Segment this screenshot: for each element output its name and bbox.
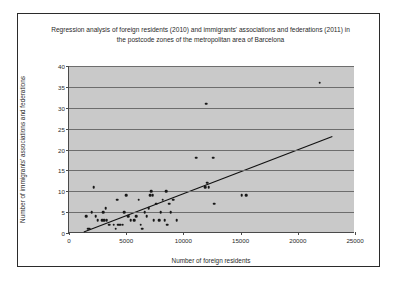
chart-title: Regression analysis of foreign residents… <box>48 25 353 45</box>
data-point <box>195 157 198 160</box>
data-point <box>125 194 128 197</box>
x-tick-label: 0 <box>67 237 70 244</box>
gridline <box>69 129 354 130</box>
chart-frame: Regression analysis of foreign residents… <box>17 13 380 267</box>
data-point <box>139 223 142 226</box>
y-tick-mark <box>66 191 69 192</box>
data-point <box>168 202 171 205</box>
y-tick-mark <box>66 66 69 67</box>
gridline <box>69 150 354 151</box>
data-point <box>165 190 168 193</box>
data-point <box>91 211 94 214</box>
x-tick-label: 20000 <box>289 237 306 244</box>
data-point <box>112 223 115 226</box>
data-point <box>159 211 162 214</box>
x-tick-label: 10000 <box>175 237 192 244</box>
data-point <box>245 194 248 197</box>
data-point <box>318 81 321 84</box>
data-point <box>108 223 111 226</box>
data-point <box>135 215 138 218</box>
data-point <box>102 211 105 214</box>
data-point <box>92 186 95 189</box>
y-axis-label: Number of immigrants' associations and f… <box>16 66 30 233</box>
x-tick-label: 25000 <box>346 237 363 244</box>
data-point <box>133 219 136 222</box>
gridline <box>69 108 354 109</box>
data-point <box>147 207 150 210</box>
data-point <box>145 215 148 218</box>
y-tick-label: 25 <box>58 125 65 132</box>
data-point <box>213 202 216 205</box>
y-tick-label: 15 <box>58 167 65 174</box>
data-point <box>143 211 146 214</box>
data-point <box>204 186 207 189</box>
data-point <box>175 219 178 222</box>
gridline <box>69 170 354 171</box>
data-point <box>162 198 165 201</box>
data-point <box>127 215 130 218</box>
y-tick-label: 0 <box>62 230 65 237</box>
y-tick-label: 35 <box>58 83 65 90</box>
y-tick-mark <box>66 212 69 213</box>
gridline <box>69 87 354 88</box>
data-point <box>121 223 124 226</box>
data-point <box>205 102 208 105</box>
data-point <box>104 207 107 210</box>
x-tick-mark <box>126 232 127 235</box>
y-tick-label: 40 <box>58 63 65 70</box>
data-point <box>207 186 210 189</box>
x-tick-label: 15000 <box>232 237 249 244</box>
gridline <box>69 66 354 67</box>
data-point <box>212 157 215 160</box>
data-point <box>206 182 209 185</box>
x-tick-mark <box>69 232 70 235</box>
data-point <box>150 190 153 193</box>
data-point <box>85 215 88 218</box>
data-point <box>88 228 91 231</box>
data-point <box>172 198 175 201</box>
y-tick-label: 30 <box>58 104 65 111</box>
x-tick-label: 5000 <box>119 237 133 244</box>
x-tick-mark <box>241 232 242 235</box>
data-point <box>123 211 126 214</box>
data-point <box>105 219 108 222</box>
y-tick-mark <box>66 150 69 151</box>
data-point <box>152 219 155 222</box>
data-point <box>96 219 99 222</box>
x-axis-label: Number of foreign residents <box>68 257 354 264</box>
data-point <box>141 228 144 231</box>
data-point <box>129 219 132 222</box>
data-point <box>170 211 173 214</box>
x-tick-mark <box>298 232 299 235</box>
x-tick-mark <box>355 232 356 235</box>
y-tick-label: 20 <box>58 146 65 153</box>
y-tick-mark <box>66 108 69 109</box>
y-tick-mark <box>66 129 69 130</box>
data-point <box>137 198 140 201</box>
y-tick-label: 10 <box>58 188 65 195</box>
data-point <box>166 223 169 226</box>
x-tick-mark <box>183 232 184 235</box>
y-tick-mark <box>66 170 69 171</box>
data-point <box>240 194 243 197</box>
data-point <box>155 202 158 205</box>
y-tick-label: 5 <box>62 209 65 216</box>
data-point <box>115 228 118 231</box>
data-point <box>151 194 154 197</box>
y-tick-mark <box>66 87 69 88</box>
gridline <box>69 212 354 213</box>
data-point <box>163 219 166 222</box>
data-point <box>95 215 98 218</box>
plot-area: 0510152025303540050001000015000200002500… <box>68 66 354 233</box>
gridline <box>69 191 354 192</box>
data-point <box>158 219 161 222</box>
data-point <box>116 198 119 201</box>
